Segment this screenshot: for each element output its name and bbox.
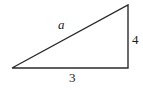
triangle-diagram: a 4 3: [0, 0, 143, 90]
vertical-side-label: 4: [132, 33, 139, 46]
base-side-label: 3: [69, 71, 76, 84]
hypotenuse-label: a: [58, 18, 65, 31]
triangle-outline: [12, 5, 128, 68]
